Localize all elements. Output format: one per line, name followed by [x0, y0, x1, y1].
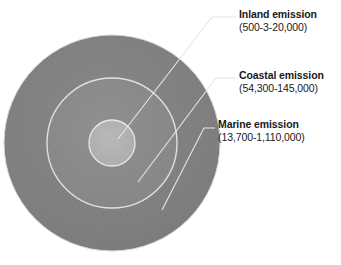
label-inland-range: (500-3-20,000) [239, 21, 317, 34]
emission-concentric-diagram: Inland emission (500-3-20,000) Coastal e… [0, 0, 341, 265]
label-inland-emission: Inland emission (500-3-20,000) [239, 8, 317, 34]
ring-inland-texture [89, 120, 135, 166]
label-coastal-title: Coastal emission [239, 69, 324, 82]
label-marine-emission: Marine emission (13,700-1,110,000) [218, 118, 305, 144]
label-marine-title: Marine emission [218, 118, 305, 131]
label-coastal-emission: Coastal emission (54,300-145,000) [239, 69, 324, 95]
label-coastal-range: (54,300-145,000) [239, 82, 324, 95]
label-marine-range: (13,700-1,110,000) [218, 131, 305, 144]
label-inland-title: Inland emission [239, 8, 317, 21]
